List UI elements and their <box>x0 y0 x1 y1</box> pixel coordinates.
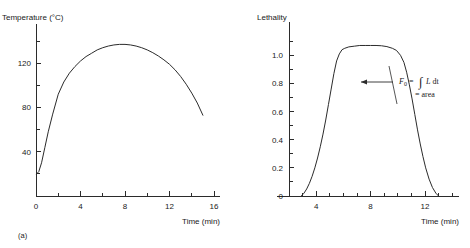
integral-symbol: ∫ <box>418 74 424 90</box>
y-tick-label: 0.6 <box>272 108 284 117</box>
annotation-arrow-head <box>361 79 367 84</box>
y-tick-label: 80 <box>22 103 31 112</box>
x-tick-label: 4 <box>78 202 83 211</box>
x-tick-label: 8 <box>368 202 373 211</box>
f0-formula-line2: = area <box>415 90 435 99</box>
figure-container: 04812164080120Temperature (°C)Time (min)… <box>0 0 470 248</box>
x-tick-label: 4 <box>314 202 319 211</box>
x-tick-label: 12 <box>165 202 174 211</box>
y-axis-title: Lethality <box>257 13 287 22</box>
temperature-chart-svg: 04812164080120Temperature (°C)Time (min)… <box>0 0 235 248</box>
y-tick-label: 0.8 <box>272 79 284 88</box>
chart-panel-temperature: 04812164080120Temperature (°C)Time (min)… <box>0 0 235 248</box>
f0-formula-line1: F0 = <box>398 77 414 87</box>
panel-caption: (a) <box>18 231 28 240</box>
x-axis-title: Time (min) <box>421 217 459 226</box>
x-tick-label: 16 <box>210 202 219 211</box>
x-tick-label: 8 <box>123 202 128 211</box>
y-tick-label: 40 <box>22 148 31 157</box>
x-tick-label: 0 <box>34 202 39 211</box>
annotation-leader-line <box>389 66 397 104</box>
lethality-chart-svg: 481200.20.40.60.81.0LethalityTime (min)F… <box>235 0 470 248</box>
temperature-curve <box>37 44 203 173</box>
x-axis-title: Time (min) <box>182 217 220 226</box>
y-tick-label: 0.4 <box>272 136 284 145</box>
y-tick-label: 1.0 <box>272 51 284 60</box>
y-tick-label: 0 <box>279 192 284 201</box>
chart-panel-lethality: 481200.20.40.60.81.0LethalityTime (min)F… <box>235 0 470 248</box>
f0-formula-integrand: L dt <box>425 77 439 86</box>
lethality-curve <box>301 45 438 196</box>
y-axis-title: Temperature (°C) <box>2 13 64 22</box>
y-tick-label: 0.2 <box>272 164 284 173</box>
x-tick-label: 12 <box>421 202 430 211</box>
f0-annotation: F0 = ∫L dt= area <box>361 66 439 104</box>
y-tick-label: 120 <box>18 59 32 68</box>
